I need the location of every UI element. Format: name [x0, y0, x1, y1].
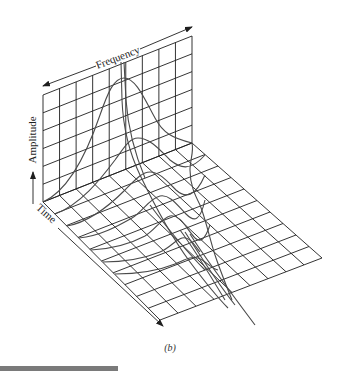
- floor-frequency-line: [55, 155, 205, 214]
- floor-frequency-line: [43, 143, 192, 202]
- floor-frequency-line: [148, 247, 309, 309]
- time-arrow-down: [58, 228, 163, 326]
- frequency-axis: Frequency: [43, 27, 192, 86]
- wall-horizontal-line: [43, 107, 192, 166]
- bottom-divider-bar: [0, 366, 118, 371]
- wall-horizontal-line: [43, 90, 192, 149]
- time-axis: Time: [34, 201, 163, 326]
- figure-caption: (b): [164, 342, 176, 354]
- amplitude-label: Amplitude: [26, 116, 38, 163]
- wall-horizontal-line: [43, 36, 192, 95]
- spectral-curves: [43, 62, 255, 325]
- time-frequency-floor-grid: [43, 143, 322, 320]
- frequency-arrow-right: [140, 27, 192, 49]
- curve-slice-3: [79, 196, 205, 238]
- floor-frequency-line: [90, 189, 244, 249]
- frequency-arrow-left: [43, 66, 96, 86]
- frequency-label: Frequency: [94, 43, 142, 71]
- curve-slice-2: [67, 172, 205, 226]
- amplitude-axis: Amplitude: [26, 116, 38, 204]
- floor-frequency-line: [137, 235, 296, 296]
- time-label: Time: [34, 201, 59, 225]
- floor-frequency-line: [102, 201, 258, 262]
- floor-frequency-line: [160, 258, 322, 320]
- waterfall-diagram: Frequency Amplitude Time (b): [0, 0, 342, 371]
